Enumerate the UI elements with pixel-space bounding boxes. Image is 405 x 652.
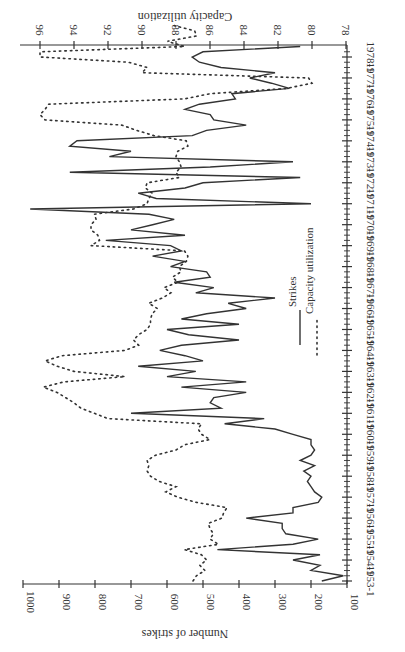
capacity-tick-label: 80 [306,25,318,37]
legend-capacity-label: Capacity utilization [303,227,315,314]
legend-strikes-label: Strikes [286,276,298,307]
strikes-tick-label: 500 [205,594,217,611]
capacity-tick-label: 88 [170,25,182,37]
capacity-tick-label: 90 [136,25,148,37]
capacity-tick-label: 96 [34,25,46,37]
strikes-tick-label: 300 [277,594,289,611]
legend: StrikesCapacity utilization [286,227,317,355]
strikes-tick-label: 1000 [25,591,37,614]
strikes-axis-title: Number of strikes [141,627,228,641]
strikes-tick-label: 600 [169,594,181,611]
time-tick-label: 1978-1 [365,41,377,72]
strikes-line [30,47,343,582]
capacity-tick-label: 92 [102,25,114,36]
strikes-tick-label: 200 [313,594,325,611]
strikes-tick-label: 900 [61,594,73,611]
capacity-utilization-line [40,26,312,581]
chart: 1953-11954-11955-11956-11957-11958-11959… [0,0,405,652]
capacity-tick-label: 94 [68,25,80,37]
strikes-tick-label: 400 [241,594,253,611]
capacity-tick-label: 82 [272,25,284,36]
strikes-tick-label: 700 [133,594,145,611]
capacity-axis-title: Capacity utilization [138,10,232,24]
strikes-tick-label: 100 [349,594,361,611]
capacity-tick-label: 86 [204,25,216,37]
capacity-tick-label: 84 [238,25,250,37]
strikes-tick-label: 800 [97,594,109,611]
capacity-tick-label: 78 [340,25,352,37]
